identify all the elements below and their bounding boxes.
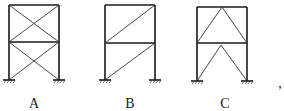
frame-c-label: C <box>220 96 229 111</box>
frame-b-label: B <box>125 96 134 111</box>
fixed-support-icon <box>149 80 161 83</box>
frame-b-brace <box>105 43 155 80</box>
frame-b-brace <box>105 5 155 43</box>
fixed-support-icon <box>191 81 203 84</box>
frame-c-brace <box>221 45 247 81</box>
frame-a <box>3 5 65 83</box>
frame-a-label: A <box>29 96 40 111</box>
fixed-support-icon <box>3 80 15 83</box>
frame-c-brace <box>197 45 221 81</box>
fixed-support-icon <box>99 80 111 83</box>
frame-c-brace <box>222 7 247 43</box>
frame-c <box>191 7 253 84</box>
fixed-support-icon <box>53 80 65 83</box>
trailing-comma: , <box>278 76 282 91</box>
fixed-support-icon <box>241 81 253 84</box>
frames-diagram: A B C , <box>0 0 284 111</box>
frame-c-brace <box>197 7 222 43</box>
frame-b <box>99 5 161 83</box>
